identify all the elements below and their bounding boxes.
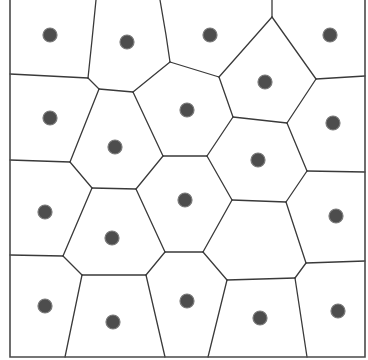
seed-point [43, 111, 57, 125]
seed-point [258, 75, 272, 89]
voronoi-edge [219, 17, 272, 77]
voronoi-edge [272, 17, 316, 79]
voronoi-edge [203, 252, 227, 280]
voronoi-edge [133, 62, 170, 92]
voronoi-diagram [0, 0, 368, 360]
seed-point [331, 304, 345, 318]
voronoi-edge [88, 78, 99, 89]
seed-point [105, 231, 119, 245]
voronoi-edge [160, 0, 170, 62]
voronoi-edge [295, 263, 306, 278]
voronoi-edge [208, 280, 227, 357]
voronoi-edge [219, 77, 233, 117]
voronoi-edge [10, 160, 70, 162]
voronoi-edge [207, 156, 232, 200]
seed-point [120, 35, 134, 49]
voronoi-edge [99, 89, 133, 92]
voronoi-edge [146, 275, 165, 357]
voronoi-edge [306, 261, 365, 263]
voronoi-edge [287, 123, 307, 171]
seed-point [178, 193, 192, 207]
voronoi-edge [316, 76, 365, 79]
voronoi-edge [136, 156, 163, 189]
seed-point [180, 103, 194, 117]
seed-point [323, 28, 337, 42]
voronoi-edge [10, 255, 63, 256]
voronoi-edge [286, 171, 307, 202]
seed-point [108, 140, 122, 154]
seed-point [180, 294, 194, 308]
voronoi-edge [287, 79, 316, 123]
voronoi-edge [63, 256, 82, 275]
voronoi-edge [88, 0, 96, 78]
seed-point [43, 28, 57, 42]
voronoi-edge [133, 92, 163, 156]
voronoi-edge [146, 252, 165, 275]
voronoi-edge [307, 171, 365, 172]
voronoi-edge [295, 278, 307, 357]
seed-point [38, 205, 52, 219]
seed-point [253, 311, 267, 325]
seed-point [38, 299, 52, 313]
voronoi-edge [70, 162, 92, 188]
voronoi-edge [10, 74, 88, 78]
voronoi-edge [70, 89, 99, 162]
voronoi-edge [136, 189, 165, 252]
voronoi-edge [170, 62, 219, 77]
voronoi-edge [207, 117, 233, 156]
voronoi-edge [227, 278, 295, 280]
seed-point [203, 28, 217, 42]
voronoi-edge [203, 200, 232, 252]
seed-point [329, 209, 343, 223]
seed-point [251, 153, 265, 167]
voronoi-edge [63, 188, 92, 256]
voronoi-edge [65, 275, 82, 357]
voronoi-edge [233, 117, 287, 123]
seed-point [326, 116, 340, 130]
voronoi-edge [232, 200, 286, 202]
voronoi-edge [92, 188, 136, 189]
seed-point [106, 315, 120, 329]
voronoi-edge [286, 202, 306, 263]
